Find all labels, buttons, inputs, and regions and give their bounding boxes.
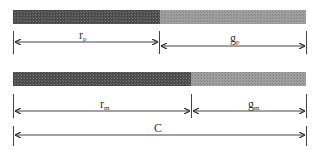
label-gm: gm	[248, 98, 259, 112]
label-cycle: C	[154, 122, 162, 134]
signal-timing-diagram: rp gp rm gm C	[0, 0, 319, 153]
top-dimension-lines	[14, 31, 307, 54]
bottom-red-segment	[13, 72, 191, 86]
bottom-phase-bar	[13, 72, 306, 86]
label-gp: gp	[230, 32, 240, 46]
bottom-green-segment	[191, 72, 306, 86]
top-phase-bar	[13, 10, 306, 24]
top-red-segment	[13, 10, 160, 24]
label-rm: rm	[100, 98, 109, 112]
label-rp: rp	[79, 29, 87, 43]
bottom-dimension-lines	[14, 94, 307, 146]
top-green-segment	[160, 10, 306, 24]
